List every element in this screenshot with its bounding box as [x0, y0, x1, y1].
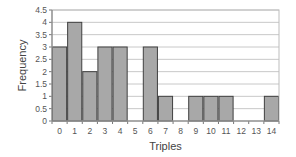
x-tick-label: 13 [252, 126, 262, 136]
bar-1 [68, 22, 82, 121]
y-tick-label: 3 [42, 42, 47, 52]
x-tick-label: 2 [87, 126, 92, 136]
x-tick-label: 14 [267, 126, 277, 136]
x-tick-label: 6 [148, 126, 153, 136]
bar-14 [264, 96, 278, 121]
x-tick-label: 9 [193, 126, 198, 136]
x-tick-label: 10 [206, 126, 216, 136]
y-tick-label: 1 [42, 91, 47, 101]
x-axis-label: Triples [149, 140, 182, 152]
bar-7 [158, 96, 172, 121]
y-axis-label: Frequency [16, 39, 28, 91]
y-tick-label: 4.5 [35, 5, 47, 15]
bar-4 [113, 47, 127, 121]
y-tick-label: 2.5 [35, 54, 47, 64]
bar-11 [219, 96, 233, 121]
x-tick-label: 8 [178, 126, 183, 136]
bar-10 [204, 96, 218, 121]
x-axis-ticks: 01234567891011121314 [52, 121, 279, 136]
bar-9 [189, 96, 203, 121]
bar-3 [98, 47, 112, 121]
bar-0 [53, 47, 67, 121]
bar-6 [143, 47, 157, 121]
y-tick-label: 2 [42, 67, 47, 77]
x-tick-label: 5 [133, 126, 138, 136]
y-tick-label: 0 [42, 116, 47, 126]
bar-chart: 00.511.522.533.544.5 0123456789101112131… [0, 0, 296, 157]
x-tick-label: 7 [163, 126, 168, 136]
y-tick-label: 3.5 [35, 30, 47, 40]
x-tick-label: 11 [222, 126, 231, 136]
x-tick-label: 4 [118, 126, 123, 136]
x-tick-label: 12 [236, 126, 246, 136]
y-tick-label: 1.5 [35, 79, 47, 89]
x-tick-label: 1 [72, 126, 77, 136]
y-axis-ticks: 00.511.522.533.544.5 [35, 5, 52, 126]
y-tick-label: 0.5 [35, 104, 47, 114]
y-tick-label: 4 [42, 17, 47, 27]
x-tick-label: 0 [57, 126, 62, 136]
bar-2 [83, 72, 97, 121]
x-tick-label: 3 [103, 126, 108, 136]
